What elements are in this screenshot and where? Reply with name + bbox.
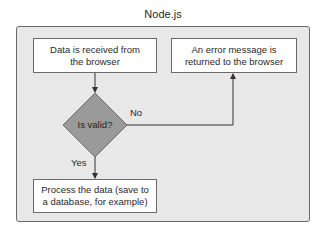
node-data-received: Data is received from the browser	[33, 38, 157, 73]
yes-label: Yes	[71, 157, 87, 168]
arrow-no-to-error	[127, 74, 233, 125]
node-error-returned-label: An error message is returned to the brow…	[182, 44, 286, 68]
node-process-data: Process the data (save to a database, fo…	[33, 179, 157, 213]
node-data-received-label: Data is received from the browser	[44, 44, 146, 68]
no-label: No	[130, 107, 142, 118]
node-error-returned: An error message is returned to the brow…	[171, 38, 297, 73]
decision-label: Is valid?	[73, 119, 117, 130]
node-process-data-label: Process the data (save to a database, fo…	[38, 184, 152, 208]
